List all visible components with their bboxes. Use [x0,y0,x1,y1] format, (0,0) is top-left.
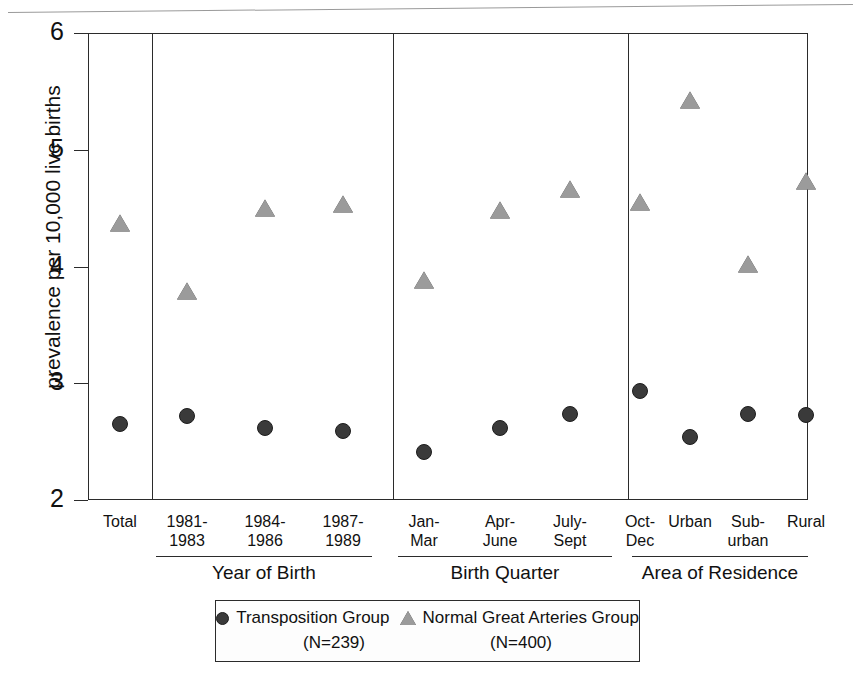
legend-n-normal-great-arteries: (N=400) [490,633,552,653]
group-rule-0 [156,556,372,557]
group-label-1: Birth Quarter [451,562,560,584]
data-point-triangle-10 [796,172,816,189]
x-category-label-10: Rural [787,512,825,531]
x-category-label-6: July- Sept [553,512,587,550]
legend: Transposition Group Normal Great Arterie… [215,600,640,662]
y-tick-3 [74,383,88,384]
data-point-triangle-8 [680,92,700,109]
data-point-triangle-0 [110,214,130,231]
data-point-triangle-5 [490,201,510,218]
data-point-circle-3 [335,423,351,439]
legend-entry-transposition: Transposition Group [216,608,389,628]
figure-container: 65432 prevalence per 10,000 live births … [0,0,857,678]
y-tick-4 [74,267,88,268]
data-point-triangle-2 [255,199,275,216]
x-category-label-9: Sub- urban [728,512,769,550]
legend-n-transposition: (N=239) [303,633,365,653]
data-point-circle-6 [562,406,578,422]
data-point-triangle-1 [177,282,197,299]
panel-divider-3 [628,33,629,500]
data-point-circle-7 [632,383,648,399]
y-axis-title: prevalence per 10,000 live births [41,2,65,472]
x-category-label-1: 1981- 1983 [167,512,208,550]
data-point-triangle-7 [630,193,650,210]
page-scan-rule [8,4,853,13]
data-point-circle-8 [682,429,698,445]
group-label-2: Area of Residence [642,562,798,584]
data-point-circle-0 [112,416,128,432]
x-category-label-3: 1987- 1989 [323,512,364,550]
x-category-label-2: 1984- 1986 [245,512,286,550]
plot-frame [88,33,808,500]
x-category-label-5: Apr- June [483,512,518,550]
triangle-marker-icon [400,611,416,625]
y-tick-2 [74,500,88,501]
legend-label-normal-great-arteries: Normal Great Arteries Group [423,608,639,628]
y-tick-label-2: 2 [20,486,64,511]
data-point-circle-1 [179,408,195,424]
data-point-circle-5 [492,420,508,436]
group-rule-2 [632,556,808,557]
panel-divider-1 [152,33,153,500]
x-category-label-4: Jan- Mar [408,512,439,550]
panel-divider-2 [393,33,394,500]
x-category-label-8: Urban [668,512,712,531]
x-category-label-0: Total [103,512,137,531]
data-point-triangle-9 [738,255,758,272]
legend-label-transposition: Transposition Group [236,608,389,628]
data-point-triangle-6 [560,180,580,197]
data-point-circle-4 [416,444,432,460]
data-point-triangle-4 [414,272,434,289]
group-label-0: Year of Birth [212,562,316,584]
y-tick-5 [74,150,88,151]
legend-entry-normal-great-arteries: Normal Great Arteries Group [400,608,639,628]
data-point-circle-2 [257,420,273,436]
data-point-circle-10 [798,407,814,423]
data-point-triangle-3 [333,196,353,213]
data-point-circle-9 [740,406,756,422]
group-rule-1 [398,556,612,557]
x-category-label-7: Oct- Dec [625,512,655,550]
legend-entries-row: Transposition Group Normal Great Arterie… [216,608,639,628]
circle-marker-icon [216,612,229,625]
y-tick-6 [74,33,88,34]
